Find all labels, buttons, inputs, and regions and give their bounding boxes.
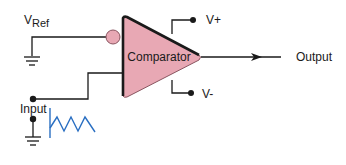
vref-label-sub: Ref	[32, 17, 50, 29]
vplus-label: V+	[206, 13, 221, 27]
inverting-bubble	[106, 30, 120, 44]
input-label: Input	[20, 102, 47, 116]
vminus-label: V-	[202, 87, 213, 101]
input-wire	[34, 73, 123, 99]
vplus-terminal-dot	[190, 17, 196, 23]
vref-label: VRef	[24, 13, 50, 29]
comparator-diagram: VRef V+ V- Comparator Output Input	[0, 0, 346, 165]
input-waveform-icon	[50, 108, 95, 138]
vminus-terminal-dot	[188, 90, 194, 96]
vref-ground-icon	[24, 57, 40, 65]
vplus-wire	[172, 20, 192, 34]
comparator-label: Comparator	[127, 50, 190, 64]
output-label: Output	[296, 50, 333, 64]
input-ground-icon	[25, 137, 41, 145]
vref-label-main: V	[24, 13, 32, 27]
vref-wire	[32, 37, 106, 56]
vminus-wire	[172, 80, 190, 93]
